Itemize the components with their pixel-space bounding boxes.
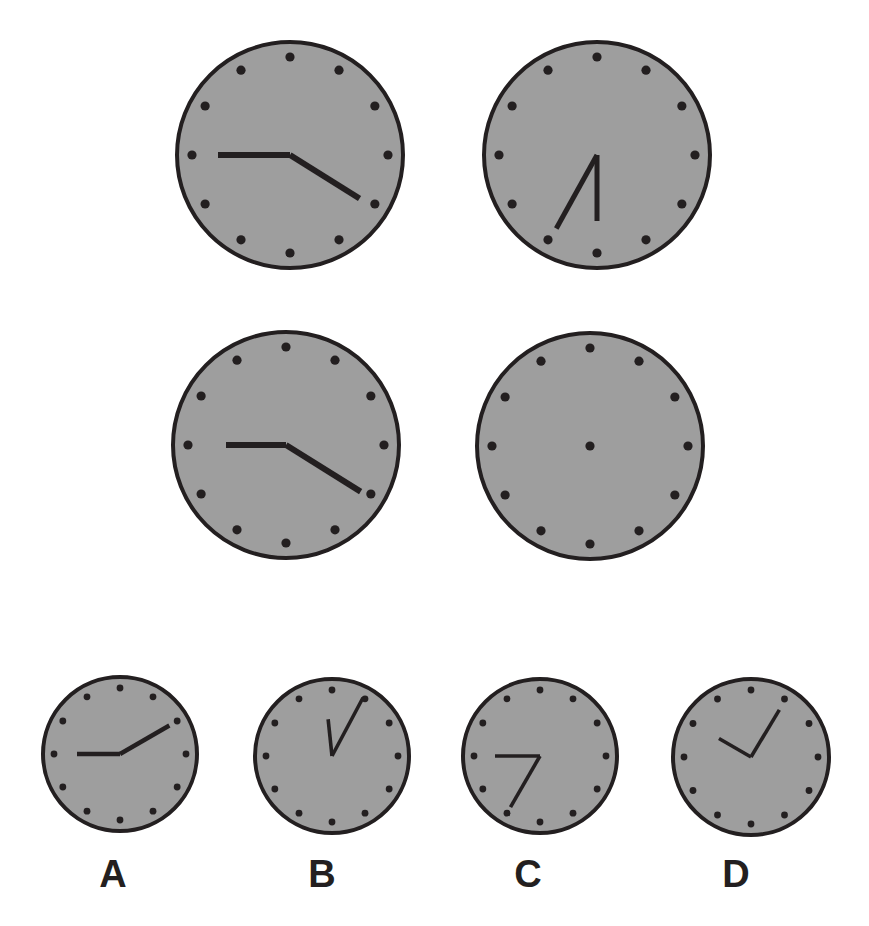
hour-marker-dot	[690, 720, 697, 727]
hour-marker-dot	[683, 441, 692, 450]
hour-marker-dot	[370, 101, 379, 110]
hour-marker-dot	[748, 821, 755, 828]
hour-marker-dot	[585, 539, 594, 548]
hour-marker-dot	[330, 525, 339, 534]
hour-marker-dot	[677, 199, 686, 208]
hour-marker-dot	[150, 693, 157, 700]
hour-marker-dot	[594, 720, 601, 727]
hour-marker-dot	[714, 696, 721, 703]
hour-marker-dot	[670, 490, 679, 499]
hour-marker-dot	[334, 235, 343, 244]
hour-marker-dot	[263, 753, 270, 760]
hour-marker-dot	[236, 66, 245, 75]
hour-marker-dot	[84, 808, 91, 815]
hour-marker-dot	[59, 784, 66, 791]
hour-marker-dot	[815, 754, 822, 761]
hour-marker-dot	[677, 101, 686, 110]
hour-marker-dot	[271, 720, 278, 727]
hour-marker-dot	[281, 342, 290, 351]
hour-marker-dot	[592, 52, 601, 61]
hour-marker-dot	[536, 526, 545, 535]
hour-marker-dot	[183, 751, 190, 758]
hour-marker-dot	[395, 753, 402, 760]
puzzle-stage: ABCD	[0, 0, 869, 926]
hour-marker-dot	[197, 489, 206, 498]
hour-marker-dot	[681, 754, 688, 761]
hour-marker-dot	[285, 248, 294, 257]
option-label-b[interactable]: B	[308, 855, 335, 893]
hour-marker-dot	[536, 357, 545, 366]
hour-marker-dot	[150, 808, 157, 815]
hour-marker-dot	[183, 440, 192, 449]
hour-marker-dot	[479, 786, 486, 793]
hour-marker-dot	[748, 687, 755, 694]
hour-marker-dot	[641, 66, 650, 75]
hour-marker-dot	[362, 810, 369, 817]
hour-marker-dot	[366, 391, 375, 400]
hour-marker-dot	[504, 695, 511, 702]
hour-marker-dot	[201, 199, 210, 208]
hour-marker-dot	[329, 819, 336, 826]
hour-marker-dot	[501, 490, 510, 499]
hour-marker-dot	[117, 817, 124, 824]
option-label-c[interactable]: C	[514, 855, 541, 893]
hour-marker-dot	[370, 199, 379, 208]
hour-marker-dot	[690, 150, 699, 159]
hour-marker-dot	[570, 810, 577, 817]
hour-marker-dot	[117, 685, 124, 692]
hour-marker-dot	[781, 696, 788, 703]
matrix-clock-bottom-right	[477, 333, 703, 559]
hour-marker-dot	[592, 248, 601, 257]
option-label-a[interactable]: A	[99, 855, 126, 893]
hour-marker-dot	[296, 695, 303, 702]
hour-marker-dot	[174, 718, 181, 725]
hour-marker-dot	[386, 720, 393, 727]
hour-marker-dot	[508, 101, 517, 110]
hour-marker-dot	[806, 787, 813, 794]
hour-marker-dot	[379, 440, 388, 449]
matrix-clock-top-left	[177, 42, 403, 268]
hour-marker-dot	[690, 787, 697, 794]
hour-marker-dot	[641, 235, 650, 244]
hour-marker-dot	[504, 810, 511, 817]
hour-marker-dot	[296, 810, 303, 817]
matrix-clock-bottom-left	[173, 332, 399, 558]
hour-marker-dot	[543, 235, 552, 244]
hour-marker-dot	[537, 687, 544, 694]
hour-marker-dot	[806, 720, 813, 727]
hour-marker-dot	[570, 695, 577, 702]
hour-marker-dot	[281, 538, 290, 547]
hour-marker-dot	[84, 693, 91, 700]
hour-marker-dot	[494, 150, 503, 159]
hour-marker-dot	[232, 525, 241, 534]
hour-marker-dot	[366, 489, 375, 498]
hour-marker-dot	[197, 391, 206, 400]
hour-marker-dot	[543, 66, 552, 75]
hour-marker-dot	[634, 357, 643, 366]
hour-marker-dot	[386, 786, 393, 793]
hour-marker-dot	[471, 753, 478, 760]
option-clock-d[interactable]	[673, 679, 829, 835]
option-label-d[interactable]: D	[722, 855, 749, 893]
hour-marker-dot	[714, 812, 721, 819]
clock-puzzle-canvas	[0, 0, 869, 926]
option-clock-b[interactable]	[255, 679, 409, 833]
hour-marker-dot	[501, 392, 510, 401]
hour-marker-dot	[537, 819, 544, 826]
hour-marker-dot	[330, 356, 339, 365]
hour-marker-dot	[236, 235, 245, 244]
hour-marker-dot	[487, 441, 496, 450]
hour-marker-dot	[285, 52, 294, 61]
option-clock-c[interactable]	[463, 679, 617, 833]
hour-marker-dot	[670, 392, 679, 401]
hour-marker-dot	[781, 812, 788, 819]
hour-marker-dot	[174, 784, 181, 791]
hour-marker-dot	[603, 753, 610, 760]
hour-marker-dot	[585, 343, 594, 352]
hour-marker-dot	[329, 687, 336, 694]
option-clock-a[interactable]	[43, 677, 197, 831]
hour-marker-dot	[383, 150, 392, 159]
hour-marker-dot	[594, 786, 601, 793]
hour-marker-dot	[201, 101, 210, 110]
hour-marker-dot	[334, 66, 343, 75]
